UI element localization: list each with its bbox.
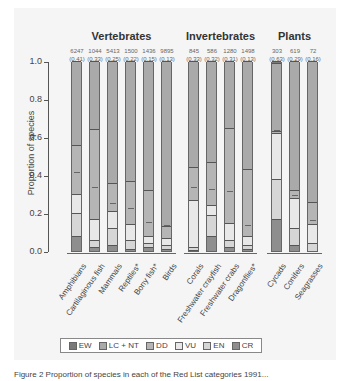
threat-estimate-marker <box>227 191 233 192</box>
segment-cr <box>290 245 299 251</box>
y-tick <box>44 138 48 139</box>
segment-dd <box>144 190 153 236</box>
segment-lc-nt <box>225 61 234 128</box>
segment-dd <box>189 167 198 199</box>
segment-vu <box>272 133 281 179</box>
segment-cr <box>108 245 117 251</box>
threat-estimate-marker <box>292 195 298 196</box>
threat-estimate-marker <box>110 203 116 204</box>
segment-vu <box>108 211 117 228</box>
segment-en <box>225 240 234 248</box>
y-tick <box>44 62 48 63</box>
x-axis-vertebrates <box>67 253 176 259</box>
segment-dd <box>90 129 99 218</box>
bar-seagrasses <box>307 62 318 252</box>
legend-swatch <box>69 342 77 350</box>
threat-estimate-marker <box>146 222 152 223</box>
threat-estimate-marker <box>191 187 197 188</box>
segment-cr <box>272 219 281 251</box>
segment-vu <box>189 200 198 248</box>
bar-reptiles- <box>125 62 136 252</box>
segment-vu <box>162 238 171 246</box>
x-axis-plants <box>267 253 322 259</box>
segment-lc-nt <box>90 61 99 129</box>
segment-cr <box>72 236 81 251</box>
segment-cr <box>144 247 153 251</box>
segment-en <box>108 228 117 245</box>
threat-estimate-marker <box>274 130 280 131</box>
legend-label: EN <box>213 341 224 350</box>
segment-lc-nt <box>126 61 135 181</box>
y-tick-label: 0.0 <box>18 246 42 256</box>
y-tick <box>44 252 48 253</box>
segment-dd <box>272 131 281 133</box>
segment-lc-nt <box>207 61 216 162</box>
legend-swatch <box>146 342 154 350</box>
species-count: 1498 <box>236 47 260 55</box>
segment-vu <box>72 194 81 213</box>
segment-dd <box>72 145 81 194</box>
bar-freshwater-crayfish <box>206 62 217 252</box>
threat-estimate-marker <box>310 220 316 221</box>
bar-bony-fish- <box>143 62 154 252</box>
segment-dd <box>308 202 317 225</box>
threat-estimate-marker <box>164 225 170 226</box>
legend-item: LC + NT <box>99 341 139 350</box>
bar-amphibians <box>71 62 82 252</box>
bar-birds <box>161 62 172 252</box>
segment-en <box>308 243 317 251</box>
segment-cr <box>225 247 234 251</box>
segment-vu <box>207 205 216 215</box>
segment-en <box>243 245 252 249</box>
legend-item: VU <box>175 341 196 350</box>
species-count: 72 <box>301 47 325 55</box>
species-count: 9895 <box>155 47 179 55</box>
segment-lc-nt <box>243 61 252 169</box>
segment-en <box>144 243 153 247</box>
segment-en <box>126 240 135 250</box>
segment-ew <box>272 61 281 63</box>
segment-en <box>189 247 198 250</box>
segment-en <box>162 245 171 249</box>
y-tick <box>44 214 48 215</box>
segment-vu <box>308 224 317 243</box>
x-axis-invertebrates <box>184 253 257 259</box>
bar-dragonflies- <box>242 62 253 252</box>
legend-label: VU <box>185 341 196 350</box>
group-title-vertebrates: Vertebrates <box>67 30 176 42</box>
segment-en <box>207 215 216 236</box>
segment-cr <box>126 249 135 251</box>
y-tick <box>44 176 48 177</box>
segment-vu <box>126 224 135 239</box>
segment-cr <box>189 250 198 251</box>
segment-lc-nt <box>308 61 317 202</box>
segment-cr <box>207 236 216 251</box>
legend-item: EW <box>69 341 92 350</box>
y-tick-label: 1.0 <box>18 56 42 66</box>
legend-swatch <box>232 342 240 350</box>
segment-dd <box>162 226 171 237</box>
segment-vu <box>290 198 299 228</box>
segment-dd <box>207 162 216 206</box>
group-title-plants: Plants <box>267 30 322 42</box>
segment-vu <box>225 223 234 240</box>
y-tick-label: 0.2 <box>18 208 42 218</box>
y-axis-title: Proportion of species <box>26 98 36 208</box>
bar-corals <box>188 62 199 252</box>
threat-estimate-marker <box>128 208 134 209</box>
segment-lc-nt <box>144 61 153 190</box>
bar-mammals <box>107 62 118 252</box>
legend-swatch <box>203 342 211 350</box>
segment-lc-nt <box>189 61 198 167</box>
segment-vu <box>144 236 153 244</box>
y-axis <box>48 62 49 252</box>
segment-cr <box>243 249 252 251</box>
segment-en <box>72 213 81 236</box>
segment-dd <box>108 183 117 212</box>
segment-lc-nt <box>162 61 171 226</box>
legend-label: EW <box>79 341 92 350</box>
legend-label: LC + NT <box>109 341 139 350</box>
bar-conifers <box>289 62 300 252</box>
bar-cycads <box>271 62 282 252</box>
segment-cr <box>162 249 171 251</box>
